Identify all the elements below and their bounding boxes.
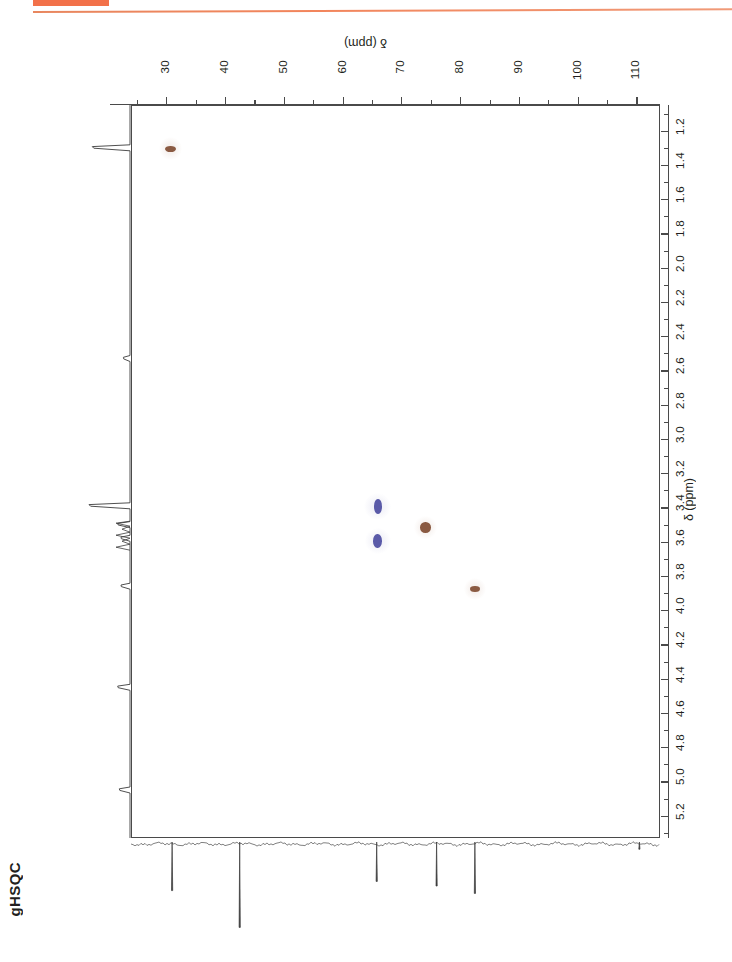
- proton-tick-label: 4.0: [674, 597, 686, 614]
- carbon-tick-label: 100: [571, 60, 583, 80]
- carbon-tick-label: 70: [394, 60, 406, 73]
- proton-tick-label: 4.6: [674, 700, 686, 717]
- proton-minor-tick: [664, 833, 669, 834]
- proton-major-tick: [661, 644, 669, 645]
- proton-tick-label: 2.0: [674, 255, 686, 272]
- carbon-projection-trace: [131, 840, 660, 940]
- proton-minor-tick: [664, 285, 669, 286]
- carbon-major-tick: [636, 97, 637, 105]
- proton-major-tick: [661, 679, 669, 680]
- cross-peak[interactable]: [470, 586, 480, 592]
- proton-axis: 1.21.41.61.82.02.22.42.62.83.03.23.43.63…: [660, 105, 670, 838]
- proton-tick-label: 3.8: [674, 563, 686, 580]
- proton-major-tick: [661, 713, 669, 714]
- carbon-major-tick: [343, 97, 344, 105]
- proton-tick-label: 4.4: [674, 666, 686, 683]
- cross-peak[interactable]: [374, 499, 382, 514]
- cross-peak[interactable]: [165, 146, 176, 152]
- proton-major-tick: [661, 233, 669, 234]
- proton-minor-tick: [664, 148, 669, 149]
- proton-major-tick: [661, 336, 669, 337]
- proton-minor-tick: [664, 422, 669, 423]
- proton-tick-label: 5.0: [674, 768, 686, 785]
- carbon-1d-projection: [131, 840, 660, 940]
- carbon-tick-label: 30: [159, 60, 171, 73]
- proton-minor-tick: [664, 730, 669, 731]
- proton-minor-tick: [664, 388, 669, 389]
- carbon-major-tick: [578, 97, 579, 105]
- proton-major-tick: [661, 131, 669, 132]
- carbon-tick-label: 60: [336, 60, 348, 73]
- carbon-major-tick: [166, 97, 167, 105]
- proton-minor-tick: [664, 662, 669, 663]
- carbon-tick-label: 90: [512, 60, 524, 73]
- proton-tick-label: 2.6: [674, 357, 686, 374]
- proton-minor-tick: [664, 456, 669, 457]
- proton-minor-tick: [664, 559, 669, 560]
- proton-minor-tick: [664, 353, 669, 354]
- proton-minor-tick: [664, 696, 669, 697]
- proton-tick-label: 2.2: [674, 289, 686, 306]
- hsqc-figure: δ (ppm) 30405060708090100110 1.21.41.61.…: [0, 0, 732, 962]
- spectrum-plot-area[interactable]: [131, 105, 660, 838]
- carbon-major-tick: [519, 97, 520, 105]
- proton-minor-tick: [664, 593, 669, 594]
- proton-major-tick: [661, 473, 669, 474]
- proton-major-tick: [661, 610, 669, 611]
- proton-major-tick: [661, 439, 669, 440]
- proton-minor-tick: [664, 490, 669, 491]
- proton-major-tick: [661, 302, 669, 303]
- proton-tick-label: 1.8: [674, 220, 686, 237]
- proton-minor-tick: [664, 627, 669, 628]
- proton-tick-label: 1.2: [674, 118, 686, 135]
- proton-tick-label: 3.6: [674, 529, 686, 546]
- proton-major-tick: [661, 542, 669, 543]
- proton-tick-label: 4.8: [674, 734, 686, 751]
- proton-minor-tick: [664, 114, 669, 115]
- proton-major-tick: [661, 576, 669, 577]
- carbon-axis-title-text: δ (ppm): [344, 36, 387, 50]
- proton-axis-line: [668, 105, 669, 838]
- carbon-tick-label: 50: [277, 60, 289, 73]
- proton-1d-projection: [88, 105, 132, 838]
- proton-major-tick: [661, 268, 669, 269]
- proton-minor-tick: [664, 525, 669, 526]
- proton-major-tick: [661, 165, 669, 166]
- cross-peak[interactable]: [420, 522, 431, 533]
- proton-tick-label: 1.4: [674, 152, 686, 169]
- proton-major-tick: [661, 405, 669, 406]
- experiment-label: gHSQC: [6, 862, 23, 917]
- proton-minor-tick: [664, 764, 669, 765]
- carbon-tick-label: 80: [453, 60, 465, 73]
- proton-major-tick: [661, 199, 669, 200]
- carbon-tick-label: 40: [218, 60, 230, 73]
- proton-major-tick: [661, 781, 669, 782]
- proton-tick-label: 2.8: [674, 392, 686, 409]
- proton-projection-trace: [88, 105, 132, 838]
- proton-minor-tick: [664, 799, 669, 800]
- proton-major-tick: [661, 747, 669, 748]
- proton-axis-title: δ (ppm): [682, 478, 696, 521]
- carbon-major-tick: [284, 97, 285, 105]
- carbon-major-tick: [460, 97, 461, 105]
- proton-major-tick: [661, 507, 669, 508]
- proton-minor-tick: [664, 182, 669, 183]
- proton-tick-label: 2.4: [674, 323, 686, 340]
- carbon-major-tick: [225, 97, 226, 105]
- proton-tick-label: 1.6: [674, 186, 686, 203]
- proton-minor-tick: [664, 319, 669, 320]
- proton-tick-label: 5.2: [674, 803, 686, 820]
- carbon-axis-title: δ (ppm): [0, 36, 732, 50]
- proton-tick-label: 3.0: [674, 426, 686, 443]
- proton-tick-label: 4.2: [674, 631, 686, 648]
- proton-tick-label: 3.2: [674, 460, 686, 477]
- carbon-tick-label: 110: [629, 60, 641, 79]
- proton-major-tick: [661, 370, 669, 371]
- proton-minor-tick: [664, 216, 669, 217]
- carbon-major-tick: [401, 97, 402, 105]
- proton-minor-tick: [664, 251, 669, 252]
- proton-major-tick: [661, 816, 669, 817]
